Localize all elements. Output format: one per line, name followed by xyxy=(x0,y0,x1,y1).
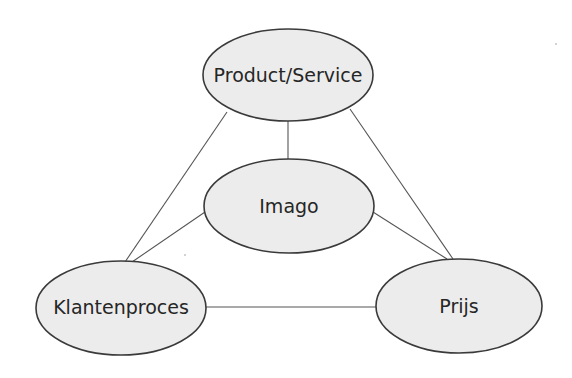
node-prijs: Prijs xyxy=(376,259,542,353)
node-product-service-label: Product/Service xyxy=(214,64,363,86)
node-product-service: Product/Service xyxy=(203,29,373,121)
node-prijs-label: Prijs xyxy=(439,295,478,317)
relationship-diagram: Product/Service Imago Klantenproces Prij… xyxy=(0,0,572,378)
scan-speck xyxy=(555,43,557,45)
node-klantenproces: Klantenproces xyxy=(36,261,206,355)
node-klantenproces-label: Klantenproces xyxy=(53,296,189,318)
node-imago: Imago xyxy=(204,159,374,253)
edge-imago-klantenproces xyxy=(132,212,205,262)
edge-imago-prijs xyxy=(373,212,447,259)
node-imago-label: Imago xyxy=(259,195,318,217)
scan-speck xyxy=(184,254,186,256)
